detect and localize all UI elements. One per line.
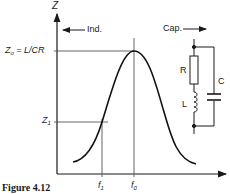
- resistor-symbol: [190, 56, 198, 84]
- f1-label: f1: [98, 181, 104, 191]
- z1-label-sub: 1: [48, 120, 51, 126]
- y-axis-label: Z: [52, 1, 58, 11]
- f0-label: f0: [131, 181, 137, 191]
- z0-label: Zo = L/CR: [5, 46, 45, 56]
- impedance-curve: [73, 51, 196, 164]
- figure-caption: Figure 4.12: [2, 183, 50, 193]
- capacitor-label: C: [218, 77, 225, 86]
- z1-label: Z1: [42, 116, 51, 126]
- cap-label: Cap.: [163, 24, 182, 33]
- z0-label-eq: = L/CR: [14, 45, 45, 55]
- f1-label-sub: 1: [101, 185, 104, 191]
- ind-label: Ind.: [87, 25, 102, 34]
- f0-label-sub: 0: [134, 185, 137, 191]
- resonance-curve-plot: [0, 0, 230, 194]
- inductor-label: L: [182, 100, 187, 109]
- resistor-label: R: [180, 66, 187, 75]
- inductor-symbol: [194, 92, 197, 112]
- parallel-rlc-circuit: [190, 39, 221, 134]
